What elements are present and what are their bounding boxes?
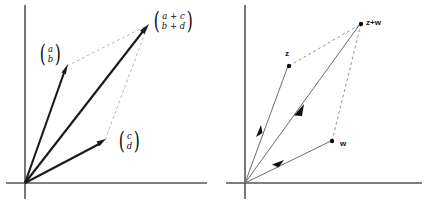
dash-cd-to-sum (105, 25, 148, 140)
complex-notation-panel (214, 0, 429, 208)
point-w (330, 139, 334, 143)
dash-ab-to-sum (67, 25, 148, 66)
label-z: z (285, 50, 289, 58)
label-z-plus-w: z+w (366, 19, 381, 27)
vector-z-w-arrowhead (294, 104, 304, 116)
point-z (287, 64, 291, 68)
vector-addition-figure: ( a + c b + d ) ( a b ) ( c d ) (0, 0, 429, 208)
right-paren-icon: ) (55, 44, 61, 65)
vector-z-w-shaft (245, 24, 360, 183)
dash-w-to-sum (332, 24, 361, 141)
left-paren-icon: ( (40, 44, 46, 65)
vector-w-arrowhead (272, 160, 284, 168)
label-cd-bottom: d (127, 141, 132, 151)
left-paren-icon: ( (154, 11, 160, 32)
label-sum-top: a + c (162, 11, 184, 21)
label-vector-cd: ( c d ) (117, 131, 142, 152)
right-paren-icon: ) (134, 131, 140, 152)
right-paren-icon: ) (187, 11, 193, 32)
label-vector-ab: ( a b ) (38, 44, 63, 65)
label-sum-bottom: b + d (162, 21, 185, 31)
left-paren-icon: ( (119, 131, 125, 152)
label-w: w (340, 140, 346, 148)
label-ab-top: a (48, 44, 53, 54)
vector-z-arrowhead (256, 125, 263, 137)
point-z-plus-w (359, 22, 363, 26)
label-sum-vector: ( a + c b + d ) (152, 11, 195, 32)
label-cd-top: c (127, 131, 132, 141)
label-ab-bottom: b (48, 54, 53, 64)
vector-ab-arrowhead (62, 64, 69, 74)
dash-z-to-sum (289, 24, 361, 66)
